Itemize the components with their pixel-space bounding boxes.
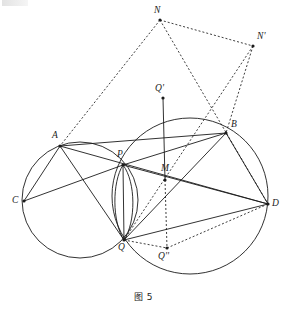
right-circle (112, 118, 268, 274)
point-label-Qpp: Q'' (158, 252, 169, 262)
point-dot-Np (251, 44, 254, 47)
point-dot-M (163, 178, 166, 181)
point-label-P: P (117, 150, 123, 160)
point-label-N: N (154, 6, 160, 16)
segment-Qdoubleprime-D (167, 204, 268, 248)
segment-A-C (24, 146, 60, 201)
segment-A-Q (60, 146, 124, 240)
segment-N-Nprime (160, 20, 253, 46)
point-dot-D (266, 202, 269, 205)
point-dot-C (22, 199, 25, 202)
segment-C-P (24, 165, 123, 201)
point-dot-Qpp (165, 246, 168, 249)
segment-P-Q (123, 165, 124, 240)
segment-N-A (60, 20, 160, 146)
point-dot-Qp (161, 96, 164, 99)
geometry-canvas (0, 0, 287, 313)
point-label-A: A (52, 131, 58, 141)
point-dot-A (58, 144, 61, 147)
segment-Q-D (124, 204, 268, 240)
point-label-B: B (231, 120, 237, 130)
segment-P-D (123, 165, 268, 204)
point-label-Q: Q (118, 243, 125, 253)
point-dot-B (224, 131, 227, 134)
segment-M-Qdoubleprime (165, 180, 167, 248)
point-label-Np: N' (257, 32, 266, 42)
segment-Nprime-Q (124, 46, 253, 240)
segment-A-B (60, 133, 226, 146)
point-label-D: D (272, 199, 279, 209)
point-label-M: M (161, 164, 169, 174)
point-dot-N (158, 18, 161, 21)
lens-arc-right (123, 165, 133, 240)
point-label-Qp: Q' (155, 84, 164, 94)
figure-caption: 图 5 (0, 290, 287, 303)
point-label-C: C (12, 196, 18, 206)
point-dot-P (121, 163, 124, 166)
geometry-figure: ABCDPQMQ'Q''NN' 图 5 (0, 0, 287, 313)
